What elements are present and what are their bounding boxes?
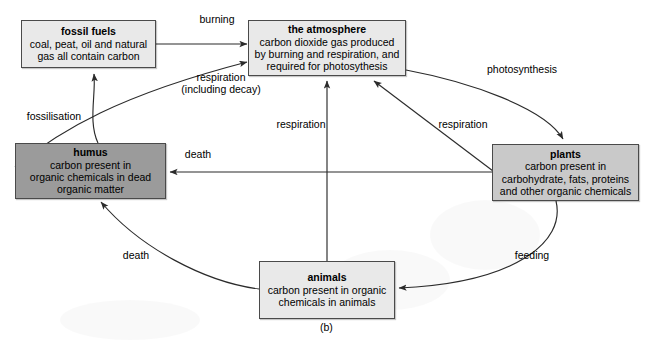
node-fossil-fuels-body: coal, peat, oil and natural gas all cont…: [30, 38, 147, 63]
edge-label-death-animals: death: [114, 249, 158, 261]
node-the-atmosphere-title: the atmosphere: [288, 23, 366, 35]
node-humus-title: humus: [73, 146, 107, 158]
node-the-atmosphere-body: carbon dioxide gas produced by burning a…: [255, 36, 400, 73]
edge-fossilisation-path: [93, 74, 98, 143]
node-fossil-fuels-title: fossil fuels: [61, 25, 116, 37]
edge-label-fossilisation: fossilisation: [14, 110, 94, 122]
carbon-cycle-figure: fossil fuels coal, peat, oil and natural…: [0, 0, 649, 347]
node-humus-body: carbon present in organic chemicals in d…: [30, 159, 151, 196]
edge-label-feeding: feeding: [506, 249, 558, 261]
edge-label-death-plants: death: [176, 148, 220, 160]
node-animals-body: carbon present in organic chemicals in a…: [268, 284, 387, 309]
node-animals-title: animals: [307, 271, 346, 283]
edge-label-respiration-animals: respiration: [268, 118, 334, 130]
node-animals[interactable]: animals carbon present in organic chemic…: [259, 261, 395, 319]
node-plants-title: plants: [550, 148, 581, 160]
edge-label-respiration-decay: respiration (including decay): [166, 71, 276, 96]
node-fossil-fuels[interactable]: fossil fuels coal, peat, oil and natural…: [21, 20, 156, 68]
node-the-atmosphere[interactable]: the atmosphere carbon dioxide gas produc…: [248, 20, 406, 76]
node-humus[interactable]: humus carbon present in organic chemical…: [15, 143, 166, 199]
edge-label-photosynthesis: photosynthesis: [474, 63, 570, 75]
scan-artifact: [60, 300, 200, 340]
node-plants-body: carbon present in carbohydrate, fats, pr…: [500, 160, 631, 197]
edge-feeding-path: [399, 201, 557, 288]
node-plants[interactable]: plants carbon present in carbohydrate, f…: [492, 144, 639, 201]
figure-caption: (b): [320, 321, 333, 333]
edge-label-burning: burning: [182, 13, 252, 25]
edge-label-respiration-plants: respiration: [430, 118, 496, 130]
edge-death-animals-path: [101, 202, 259, 289]
